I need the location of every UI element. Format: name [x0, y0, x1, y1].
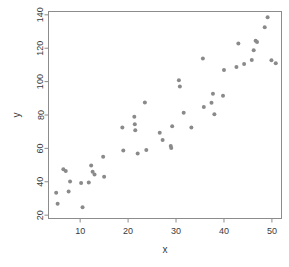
y-tick-label: 40 [36, 177, 46, 187]
data-point [266, 15, 270, 19]
data-point [158, 131, 162, 135]
data-point [234, 65, 238, 69]
data-point [250, 58, 254, 62]
data-point [269, 58, 273, 62]
data-point [178, 85, 182, 89]
data-point [121, 148, 125, 152]
data-point [169, 146, 173, 150]
data-point [210, 101, 214, 105]
x-tick-label: 20 [123, 226, 133, 236]
y-tick-label: 140 [36, 7, 46, 22]
data-point [177, 78, 181, 82]
data-point [236, 42, 240, 46]
data-point [68, 179, 72, 183]
data-point [189, 126, 193, 130]
data-point [182, 111, 186, 115]
data-point [133, 128, 137, 132]
data-point [212, 112, 216, 116]
data-point [133, 122, 137, 126]
data-point [79, 181, 83, 185]
x-tick-label: 10 [75, 226, 85, 236]
data-point [242, 62, 246, 66]
data-point [89, 163, 93, 167]
y-tick-label: 80 [36, 110, 46, 120]
data-point [132, 115, 136, 119]
y-tick-label: 60 [36, 143, 46, 153]
data-point [93, 173, 97, 177]
data-point [202, 105, 206, 109]
data-point [102, 175, 106, 179]
data-point [101, 155, 105, 159]
data-point [170, 124, 174, 128]
data-point [144, 148, 148, 152]
x-axis-label: x [163, 244, 168, 255]
y-tick-label: 120 [36, 41, 46, 56]
data-point [64, 169, 68, 173]
data-point [161, 138, 165, 142]
x-tick-label: 30 [171, 226, 181, 236]
data-point [143, 100, 147, 104]
y-axis-label: y [11, 113, 22, 118]
scatter-plot-figure: 102030405020406080100120140xy [0, 0, 289, 267]
y-tick-label: 20 [36, 210, 46, 220]
data-point [120, 126, 124, 130]
data-point [67, 189, 71, 193]
data-point [54, 191, 58, 195]
data-point [252, 48, 256, 52]
data-point [201, 57, 205, 61]
plot-canvas: 102030405020406080100120140xy [0, 0, 289, 267]
x-tick-label: 40 [219, 226, 229, 236]
data-point [222, 68, 226, 72]
data-point [211, 92, 215, 96]
data-point [263, 25, 267, 29]
y-tick-label: 100 [36, 74, 46, 89]
data-point [56, 202, 60, 206]
data-point [87, 181, 91, 185]
data-point [255, 40, 259, 44]
data-point [81, 205, 85, 209]
data-points [54, 15, 278, 209]
data-point [274, 61, 278, 65]
data-point [136, 151, 140, 155]
x-tick-label: 50 [267, 226, 277, 236]
plot-frame [49, 12, 282, 219]
data-point [221, 94, 225, 98]
